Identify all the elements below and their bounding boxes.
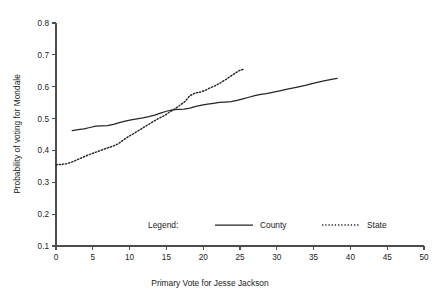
x-axis-title: Primary Vote for Jesse Jackson: [151, 278, 269, 288]
x-tick-label: 40: [346, 253, 356, 262]
y-tick-label: 0.1: [38, 242, 50, 251]
series-line-county: [72, 78, 337, 130]
x-axis: 05101520253035404550: [54, 246, 429, 262]
legend-title: Legend:: [148, 220, 178, 230]
x-tick-label: 30: [272, 253, 282, 262]
y-tick-label: 0.3: [38, 178, 50, 187]
series-line-state: [56, 69, 244, 165]
y-tick-label: 0.4: [38, 146, 50, 155]
x-tick-label: 0: [54, 253, 59, 262]
legend-label-county: County: [260, 220, 287, 230]
x-tick-label: 35: [309, 253, 319, 262]
y-tick-label: 0.8: [38, 19, 50, 28]
x-tick-label: 20: [199, 253, 209, 262]
legend-label-state: State: [367, 220, 387, 230]
x-tick-label: 45: [383, 253, 393, 262]
x-tick-label: 15: [162, 253, 172, 262]
y-tick-label: 0.7: [38, 51, 50, 60]
x-tick-label: 50: [419, 253, 429, 262]
x-tick-label: 5: [91, 253, 96, 262]
y-tick-label: 0.5: [38, 115, 50, 124]
chart-plot-area: 0.10.20.30.40.50.60.70.8 051015202530354…: [0, 0, 443, 294]
y-tick-label: 0.2: [38, 210, 50, 219]
x-tick-label: 10: [125, 253, 135, 262]
chart-legend: Legend:CountyState: [148, 220, 387, 230]
chart-figure: 0.10.20.30.40.50.60.70.8 051015202530354…: [0, 0, 443, 294]
x-tick-label: 25: [235, 253, 245, 262]
y-axis: 0.10.20.30.40.50.60.70.8: [38, 19, 56, 251]
y-tick-label: 0.6: [38, 83, 50, 92]
data-series-group: [56, 69, 337, 165]
y-axis-title: Probability of voting for Mondale: [12, 74, 22, 194]
